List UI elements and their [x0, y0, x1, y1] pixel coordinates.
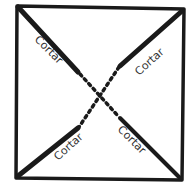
cut-lines-dotted	[79, 67, 119, 127]
cut-lines-solid	[18, 7, 182, 178]
square-cut-diagram: Cortar Cortar Cortar Cortar	[0, 0, 192, 195]
